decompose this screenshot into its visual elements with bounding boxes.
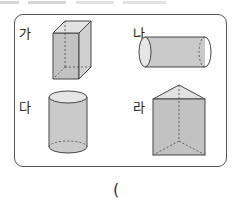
vertical-cylinder-figure <box>45 89 95 159</box>
label-ga: 가 <box>19 23 31 42</box>
label-ra: 라 <box>133 97 145 116</box>
answer-blank: ( <box>113 180 119 199</box>
cutoff-question-text <box>0 0 237 6</box>
label-da: 다 <box>19 97 31 116</box>
cuboid-figure <box>39 17 99 83</box>
triangular-prism-figure <box>149 83 209 163</box>
figures-box: 가 나 다 라 <box>14 14 227 167</box>
horizontal-cylinder-figure <box>133 35 223 71</box>
